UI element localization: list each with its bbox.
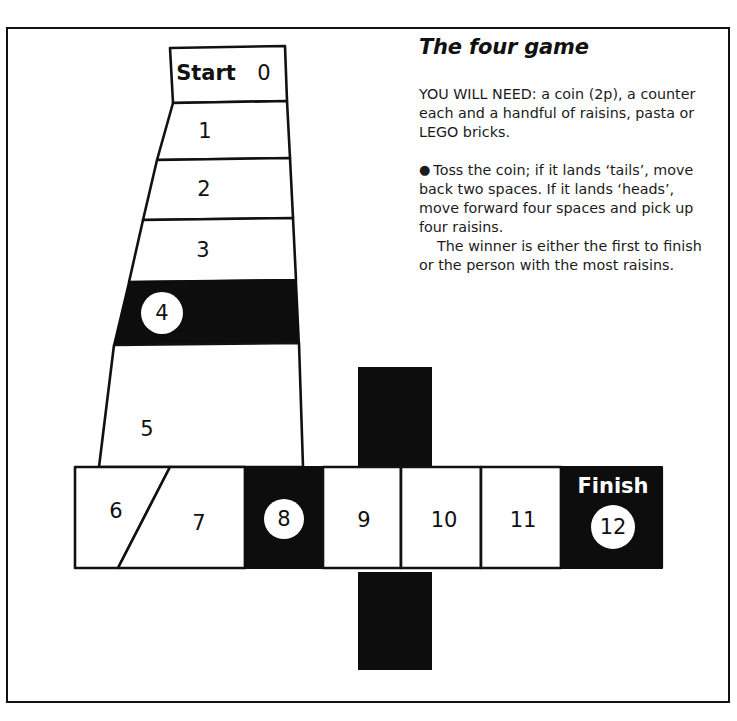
rules-paragraph: ●Toss the coin; if it lands ‘tails’, mov… bbox=[419, 161, 711, 237]
board-cell-11[interactable]: 11 bbox=[481, 467, 561, 568]
board-cell-2[interactable]: 2 bbox=[143, 158, 293, 220]
board-cell-10[interactable]: 10 bbox=[401, 467, 481, 568]
board-cell-0[interactable]: Start 0 bbox=[170, 46, 287, 103]
board-cell-5[interactable]: 5 bbox=[99, 343, 303, 467]
board-cell-4[interactable]: 4 bbox=[114, 280, 299, 345]
instructions-panel: The four game YOU WILL NEED: a coin (2p)… bbox=[419, 36, 711, 275]
rules-text: Toss the coin; if it lands ‘tails’, move… bbox=[419, 162, 693, 235]
board-cell-8[interactable]: 8 bbox=[245, 467, 323, 568]
board-cell-3[interactable]: 3 bbox=[129, 218, 296, 282]
page-title: The four game bbox=[419, 36, 711, 59]
board-cell-9[interactable]: 9 bbox=[323, 467, 401, 568]
board-cell-12[interactable]: Finish 12 bbox=[561, 467, 662, 568]
bullet-icon: ● bbox=[419, 162, 430, 177]
board-cell-1[interactable]: 1 bbox=[157, 101, 290, 160]
winner-paragraph: The winner is either the first to finish… bbox=[419, 237, 711, 275]
materials-paragraph: YOU WILL NEED: a coin (2p), a counter ea… bbox=[419, 85, 711, 142]
